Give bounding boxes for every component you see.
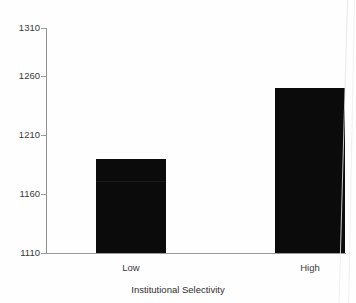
y-axis-line bbox=[46, 28, 47, 254]
bar-chart-figure: 1310 1260 1210 1160 1110 Low High Instit… bbox=[0, 0, 356, 303]
y-tick-mark bbox=[41, 76, 47, 77]
y-tick-label: 1210 bbox=[6, 129, 40, 140]
bar-scan-seam bbox=[96, 181, 166, 182]
y-tick-label: 1160 bbox=[6, 188, 40, 199]
y-tick-mark bbox=[41, 28, 47, 29]
y-tick-label: 1110 bbox=[6, 247, 40, 258]
bar-low bbox=[96, 159, 166, 254]
x-tick-label-high: High bbox=[275, 262, 345, 273]
y-tick-label: 1310 bbox=[6, 22, 40, 33]
y-tick-mark bbox=[41, 253, 47, 254]
y-tick-label: 1260 bbox=[6, 70, 40, 81]
plot-area: 1310 1260 1210 1160 1110 Low High Instit… bbox=[0, 0, 356, 303]
x-axis-line bbox=[46, 253, 346, 254]
y-tick-mark bbox=[41, 194, 47, 195]
x-axis-title: Institutional Selectivity bbox=[0, 284, 356, 295]
x-tick-label-low: Low bbox=[96, 262, 166, 273]
bar-high bbox=[275, 88, 345, 253]
y-tick-mark bbox=[41, 135, 47, 136]
